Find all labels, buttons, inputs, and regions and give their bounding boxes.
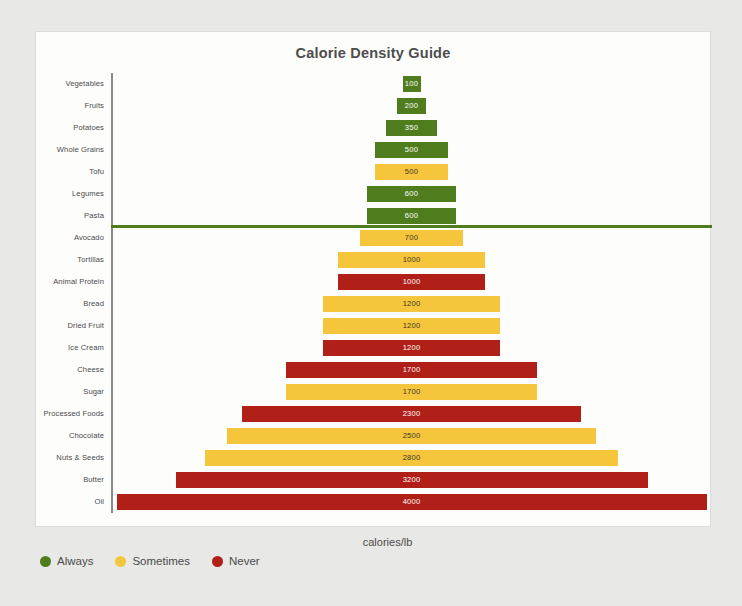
legend: AlwaysSometimesNever xyxy=(40,555,260,567)
bar-value-label: 600 xyxy=(367,186,456,202)
bar-value-label: 500 xyxy=(375,142,449,158)
bar-value-label: 600 xyxy=(367,208,456,224)
table-row: Avocado700 xyxy=(36,227,712,249)
row-label-cheese: Cheese xyxy=(36,359,104,381)
table-row: Fruits200 xyxy=(36,95,712,117)
row-label-tortillas: Tortillas xyxy=(36,249,104,271)
bar-cheese[interactable]: 1700 xyxy=(286,362,537,378)
row-label-dried-fruit: Dried Fruit xyxy=(36,315,104,337)
bar-value-label: 500 xyxy=(375,164,449,180)
bar-chocolate[interactable]: 2500 xyxy=(227,428,596,444)
bar-potatoes[interactable]: 350 xyxy=(386,120,438,136)
bar-value-label: 1200 xyxy=(323,318,500,334)
table-row: Tofu500 xyxy=(36,161,712,183)
row-label-pasta: Pasta xyxy=(36,205,104,227)
table-row: Sugar1700 xyxy=(36,381,712,403)
table-row: Oil4000 xyxy=(36,491,712,513)
table-row: Legumes600 xyxy=(36,183,712,205)
table-row: Cheese1700 xyxy=(36,359,712,381)
row-label-nuts-seeds: Nuts & Seeds xyxy=(36,447,104,469)
row-label-butter: Butter xyxy=(36,469,104,491)
bar-pasta[interactable]: 600 xyxy=(367,208,456,224)
table-row: Processed Foods2300 xyxy=(36,403,712,425)
table-row: Animal Protein1000 xyxy=(36,271,712,293)
bar-animal-protein[interactable]: 1000 xyxy=(338,274,486,290)
bar-oil[interactable]: 4000 xyxy=(117,494,707,510)
row-label-whole-grains: Whole Grains xyxy=(36,139,104,161)
legend-label: Always xyxy=(57,555,93,567)
table-row: Tortillas1000 xyxy=(36,249,712,271)
row-label-ice-cream: Ice Cream xyxy=(36,337,104,359)
legend-swatch-icon xyxy=(40,556,51,567)
bar-value-label: 100 xyxy=(403,76,421,92)
bar-value-label: 1200 xyxy=(323,340,500,356)
row-label-sugar: Sugar xyxy=(36,381,104,403)
bar-processed-foods[interactable]: 2300 xyxy=(242,406,581,422)
row-label-processed-foods: Processed Foods xyxy=(36,403,104,425)
table-row: Butter3200 xyxy=(36,469,712,491)
legend-item-always[interactable]: Always xyxy=(40,555,93,567)
row-label-animal-protein: Animal Protein xyxy=(36,271,104,293)
bar-value-label: 2300 xyxy=(242,406,581,422)
row-label-legumes: Legumes xyxy=(36,183,104,205)
table-row: Bread1200 xyxy=(36,293,712,315)
bar-legumes[interactable]: 600 xyxy=(367,186,456,202)
legend-item-sometimes[interactable]: Sometimes xyxy=(115,555,190,567)
bar-value-label: 1700 xyxy=(286,384,537,400)
bar-value-label: 1700 xyxy=(286,362,537,378)
table-row: Dried Fruit1200 xyxy=(36,315,712,337)
bar-bread[interactable]: 1200 xyxy=(323,296,500,312)
table-row: Ice Cream1200 xyxy=(36,337,712,359)
table-row: Pasta600 xyxy=(36,205,712,227)
bar-nuts-seeds[interactable]: 2800 xyxy=(205,450,618,466)
row-label-tofu: Tofu xyxy=(36,161,104,183)
table-row: Nuts & Seeds2800 xyxy=(36,447,712,469)
legend-label: Sometimes xyxy=(132,555,190,567)
plot-area: Vegetables100Fruits200Potatoes350Whole G… xyxy=(36,70,712,516)
bar-vegetables[interactable]: 100 xyxy=(403,76,421,92)
row-label-fruits: Fruits xyxy=(36,95,104,117)
row-label-vegetables: Vegetables xyxy=(36,73,104,95)
legend-swatch-icon xyxy=(212,556,223,567)
bar-tofu[interactable]: 500 xyxy=(375,164,449,180)
bar-whole-grains[interactable]: 500 xyxy=(375,142,449,158)
bar-value-label: 1000 xyxy=(338,252,486,268)
bar-value-label: 2800 xyxy=(205,450,618,466)
row-label-oil: Oil xyxy=(36,491,104,513)
bar-value-label: 700 xyxy=(360,230,463,246)
x-axis-label: calories/lb xyxy=(75,536,700,548)
bar-value-label: 4000 xyxy=(117,494,707,510)
bar-value-label: 3200 xyxy=(176,472,648,488)
row-label-potatoes: Potatoes xyxy=(36,117,104,139)
bar-value-label: 2500 xyxy=(227,428,596,444)
bar-tortillas[interactable]: 1000 xyxy=(338,252,486,268)
bar-fruits[interactable]: 200 xyxy=(397,98,427,114)
bar-value-label: 1000 xyxy=(338,274,486,290)
bar-value-label: 1200 xyxy=(323,296,500,312)
table-row: Vegetables100 xyxy=(36,73,712,95)
legend-label: Never xyxy=(229,555,260,567)
row-label-bread: Bread xyxy=(36,293,104,315)
bar-value-label: 350 xyxy=(386,120,438,136)
row-label-avocado: Avocado xyxy=(36,227,104,249)
row-label-chocolate: Chocolate xyxy=(36,425,104,447)
table-row: Whole Grains500 xyxy=(36,139,712,161)
page-title: Calorie Density Guide xyxy=(36,45,710,61)
bar-value-label: 200 xyxy=(397,98,427,114)
bar-sugar[interactable]: 1700 xyxy=(286,384,537,400)
bar-butter[interactable]: 3200 xyxy=(176,472,648,488)
bar-avocado[interactable]: 700 xyxy=(360,230,463,246)
legend-swatch-icon xyxy=(115,556,126,567)
page-root: Calorie Density Guide Vegetables100Fruit… xyxy=(0,0,742,606)
chart-card: Calorie Density Guide Vegetables100Fruit… xyxy=(35,31,711,527)
table-row: Potatoes350 xyxy=(36,117,712,139)
legend-item-never[interactable]: Never xyxy=(212,555,260,567)
bar-dried-fruit[interactable]: 1200 xyxy=(323,318,500,334)
table-row: Chocolate2500 xyxy=(36,425,712,447)
bar-ice-cream[interactable]: 1200 xyxy=(323,340,500,356)
